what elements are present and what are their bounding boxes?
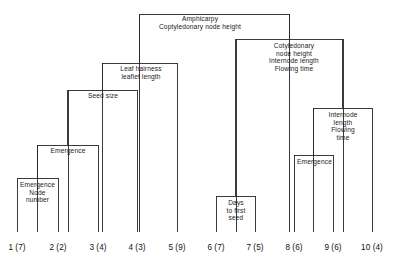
node-label-root: Amphicarpy Coptyledonary node height	[140, 15, 260, 30]
leaf-tick-label: 9 (6)	[313, 243, 353, 252]
node-label-emergence-right: Emergence	[296, 158, 333, 166]
node-label-emergence-node-number: Emergence Node number	[13, 181, 62, 204]
leaf-tick-label: 5 (9)	[157, 243, 197, 252]
node-label-leaf-hairness: Leaf hairness leaflet length	[104, 65, 178, 80]
node-label-emergence-left: Emergence	[39, 147, 97, 155]
node-label-seed-size: Seed size	[70, 92, 136, 100]
node-label-cotyledonary-group: Cotyledonary node height Internode lengt…	[252, 42, 336, 72]
leaf-tick-label: 10 (4)	[352, 243, 392, 252]
leaf-tick-label: 7 (5)	[235, 243, 275, 252]
leaf-tick-label: 8 (6)	[274, 243, 314, 252]
node-label-internode-flowing: Internode length Flowing time	[315, 111, 371, 141]
leaf-tick-label: 3 (4)	[78, 243, 118, 252]
leaf-tick-label: 2 (2)	[38, 243, 78, 252]
leaf-tick-label: 4 (3)	[117, 243, 157, 252]
leaf-tick-label: 1 (7)	[0, 243, 37, 252]
node-label-days-to-first-seed: Days to first seed	[218, 199, 254, 222]
leaf-tick-label: 6 (7)	[196, 243, 236, 252]
dendrogram-figure: Amphicarpy Coptyledonary node height Cot…	[0, 0, 400, 269]
